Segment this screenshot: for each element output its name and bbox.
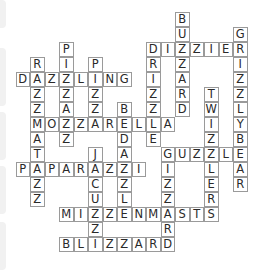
grid-cell[interactable]: S [175,207,190,222]
grid-cell[interactable]: R [175,87,190,102]
grid-cell[interactable]: R [146,57,161,72]
grid-cell[interactable]: B [59,237,74,252]
grid-cell[interactable]: D [16,72,31,87]
grid-cell[interactable]: I [161,162,176,177]
grid-cell[interactable]: W [204,102,219,117]
grid-cell[interactable]: Z [103,207,118,222]
grid-cell[interactable]: L [233,102,248,117]
grid-cell[interactable]: I [88,237,103,252]
grid-cell[interactable]: Z [30,102,45,117]
grid-cell[interactable]: Z [103,237,118,252]
grid-cell[interactable]: A [59,162,74,177]
grid-cell[interactable]: E [233,147,248,162]
grid-cell[interactable]: M [59,207,74,222]
grid-cell[interactable]: T [204,87,219,102]
grid-cell[interactable]: U [175,147,190,162]
grid-cell[interactable]: M [30,117,45,132]
grid-cell[interactable]: I [233,57,248,72]
grid-cell[interactable]: Z [59,87,74,102]
grid-cell[interactable]: L [74,237,89,252]
grid-cell[interactable]: L [117,192,132,207]
grid-cell[interactable]: U [88,192,103,207]
grid-cell[interactable]: D [117,132,132,147]
grid-cell[interactable]: A [161,117,176,132]
grid-cell[interactable]: R [233,177,248,192]
grid-cell[interactable]: Z [233,72,248,87]
grid-cell[interactable]: Z [88,222,103,237]
grid-cell[interactable]: R [74,162,89,177]
grid-cell[interactable]: Z [45,72,60,87]
grid-cell[interactable]: P [88,57,103,72]
grid-cell[interactable]: P [45,162,60,177]
grid-cell[interactable]: R [30,57,45,72]
grid-cell[interactable]: Z [88,87,103,102]
grid-cell[interactable]: Z [88,102,103,117]
grid-cell[interactable]: A [88,162,103,177]
grid-cell[interactable]: Z [30,192,45,207]
grid-cell[interactable]: Z [190,147,205,162]
grid-cell[interactable]: R [161,222,176,237]
grid-cell[interactable]: A [88,117,103,132]
grid-cell[interactable]: D [175,102,190,117]
grid-cell[interactable]: Z [175,42,190,57]
grid-cell[interactable]: T [30,147,45,162]
grid-cell[interactable]: Z [233,87,248,102]
grid-cell[interactable]: Z [59,117,74,132]
grid-cell[interactable]: L [204,162,219,177]
grid-cell[interactable]: M [146,207,161,222]
grid-cell[interactable]: R [233,42,248,57]
grid-cell[interactable]: A [233,162,248,177]
grid-cell[interactable]: R [146,237,161,252]
grid-cell[interactable]: L [132,117,147,132]
grid-cell[interactable]: L [146,117,161,132]
grid-cell[interactable]: B [233,132,248,147]
grid-cell[interactable]: U [175,27,190,42]
grid-cell[interactable]: D [146,42,161,57]
grid-cell[interactable]: R [103,117,118,132]
grid-cell[interactable]: L [74,72,89,87]
grid-cell[interactable]: A [30,132,45,147]
grid-cell[interactable]: D [161,237,176,252]
grid-cell[interactable]: Z [190,42,205,57]
grid-cell[interactable]: Z [146,102,161,117]
grid-cell[interactable]: I [204,42,219,57]
grid-cell[interactable]: Z [30,177,45,192]
grid-cell[interactable]: Z [117,237,132,252]
grid-cell[interactable]: T [190,207,205,222]
grid-cell[interactable]: A [117,147,132,162]
grid-cell[interactable]: A [161,207,176,222]
grid-cell[interactable]: G [233,27,248,42]
grid-cell[interactable]: L [219,147,234,162]
grid-cell[interactable]: I [59,57,74,72]
grid-cell[interactable]: B [117,102,132,117]
grid-cell[interactable]: Z [88,207,103,222]
grid-cell[interactable]: Z [161,177,176,192]
grid-cell[interactable]: E [146,132,161,147]
grid-cell[interactable]: I [88,72,103,87]
grid-cell[interactable]: S [204,207,219,222]
grid-cell[interactable]: J [88,147,103,162]
grid-cell[interactable]: Z [30,87,45,102]
grid-cell[interactable]: E [117,117,132,132]
grid-cell[interactable]: I [132,162,147,177]
grid-cell[interactable]: A [175,72,190,87]
grid-cell[interactable]: B [175,12,190,27]
grid-cell[interactable]: Z [103,162,118,177]
grid-cell[interactable]: Z [146,87,161,102]
grid-cell[interactable]: Z [74,117,89,132]
grid-cell[interactable]: P [16,162,31,177]
grid-cell[interactable]: A [30,162,45,177]
grid-cell[interactable]: O [45,117,60,132]
grid-cell[interactable]: Z [117,177,132,192]
grid-cell[interactable]: Y [233,117,248,132]
grid-cell[interactable]: A [30,72,45,87]
grid-cell[interactable]: E [204,177,219,192]
grid-cell[interactable]: G [161,147,176,162]
grid-cell[interactable]: I [74,207,89,222]
grid-cell[interactable]: Z [161,192,176,207]
grid-cell[interactable]: I [146,72,161,87]
grid-cell[interactable]: I [161,42,176,57]
grid-cell[interactable]: Z [59,132,74,147]
grid-cell[interactable]: G [117,72,132,87]
grid-cell[interactable]: E [219,42,234,57]
